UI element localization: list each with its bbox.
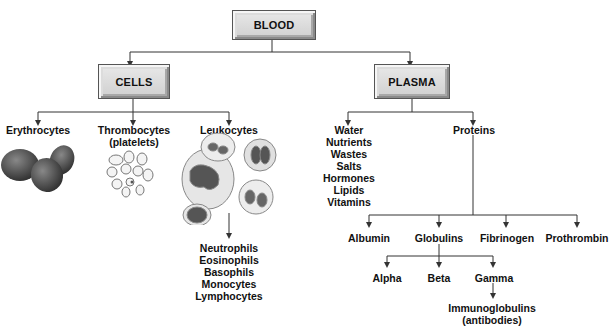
plasma-component: Wastes [312, 148, 386, 160]
cells-box: CELLS [98, 64, 170, 99]
erythrocytes-illustration-icon [0, 140, 80, 200]
alpha-label: Alpha [370, 272, 404, 284]
erythrocytes-label: Erythrocytes [4, 124, 72, 136]
leukocyte-type: Basophils [190, 266, 268, 278]
leukocyte-type: Eosinophils [190, 254, 268, 266]
plasma-component: Vitamins [312, 196, 386, 208]
immunoglobulins-label: Immunoglobulins [448, 302, 536, 314]
thrombocytes-label: Thrombocytes [96, 124, 172, 136]
platelets-sublabel: (platelets) [96, 136, 172, 148]
prothrombin-label: Prothrombin [544, 232, 610, 244]
antibodies-sublabel: (antibodies) [448, 314, 536, 326]
fibrinogen-label: Fibrinogen [478, 232, 536, 244]
plasma-component: Lipids [312, 184, 386, 196]
beta-label: Beta [426, 272, 452, 284]
plasma-label: PLASMA [388, 76, 436, 88]
leukocytes-illustration-icon [180, 133, 280, 225]
cells-label: CELLS [115, 76, 152, 88]
albumin-label: Albumin [344, 232, 394, 244]
leukocyte-type: Neutrophils [190, 242, 268, 254]
leukocyte-type: Lymphocytes [190, 290, 268, 302]
plasma-box: PLASMA [374, 64, 450, 99]
proteins-label: Proteins [448, 124, 500, 136]
plasma-component: Hormones [312, 172, 386, 184]
plasma-component: Water [312, 124, 386, 136]
blood-label: BLOOD [254, 19, 295, 31]
gamma-label: Gamma [474, 272, 514, 284]
globulins-label: Globulins [412, 232, 466, 244]
blood-box: BLOOD [232, 10, 316, 40]
connector-lines [0, 0, 613, 329]
platelets-illustration-icon [102, 150, 158, 198]
leukocyte-type: Monocytes [190, 278, 268, 290]
plasma-component: Nutrients [312, 136, 386, 148]
plasma-components-list: Water Nutrients Wastes Salts Hormones Li… [312, 124, 386, 208]
plasma-component: Salts [312, 160, 386, 172]
blood-composition-diagram: BLOOD CELLS PLASMA Erythrocytes Thromboc… [0, 0, 613, 329]
leukocyte-types-list: Neutrophils Eosinophils Basophils Monocy… [190, 242, 268, 302]
